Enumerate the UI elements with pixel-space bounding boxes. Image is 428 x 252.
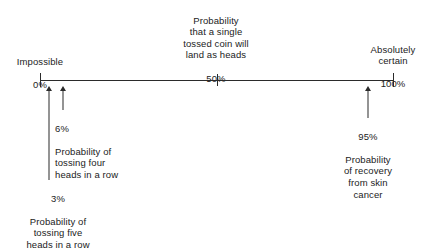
label-coin-value: 50% — [141, 73, 291, 85]
callout-3-percent: 3% Probability of tossing five heads in … — [0, 181, 123, 252]
tick-0-percent — [40, 73, 41, 87]
callout-6-description: Probability of tossing four heads in a r… — [55, 146, 165, 181]
callout-6-percent: 6% Probability of tossing four heads in … — [55, 111, 165, 192]
label-certain-group: Absolutely certain 100% — [338, 32, 428, 102]
tick-100-percent — [393, 73, 394, 87]
tick-50-percent — [217, 74, 218, 86]
callout-6-value: 6% — [55, 123, 165, 135]
arrow-3-percent — [44, 86, 53, 180]
label-coin-group: Probability that a single tossed coin wi… — [141, 3, 291, 96]
callout-95-value: 95% — [313, 131, 423, 143]
callout-3-description: Probability of tossing five heads in a r… — [0, 216, 123, 251]
label-impossible-title: Impossible — [0, 56, 100, 68]
arrow-95-percent — [363, 86, 372, 118]
callout-3-value: 3% — [0, 193, 123, 205]
callout-95-description: Probability of recovery from skin cancer — [313, 154, 423, 200]
label-certain-title: Absolutely certain — [338, 44, 428, 67]
label-coin-title: Probability that a single tossed coin wi… — [141, 15, 291, 61]
arrow-6-percent — [58, 86, 67, 110]
callout-95-percent: 95% Probability of recovery from skin ca… — [313, 119, 423, 212]
